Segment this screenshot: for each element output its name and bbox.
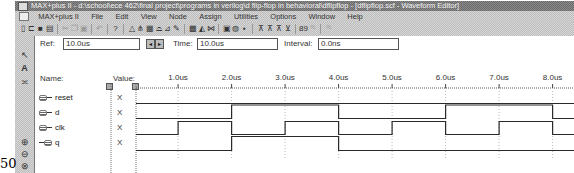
next-transition-button[interactable]: ▸ (155, 39, 164, 49)
undo-icon[interactable]: ↶ (95, 24, 104, 34)
menu-options[interactable]: Options (265, 11, 301, 22)
menu-maxplus[interactable]: MAX+plus II (33, 11, 84, 22)
cut-icon[interactable]: ✂ (61, 24, 70, 34)
waveform-draw-icon[interactable]: ≍ (17, 77, 32, 88)
menu-assign[interactable]: Assign (194, 11, 227, 22)
toolbar-separator (57, 24, 58, 34)
signal-name: d (55, 108, 59, 117)
toolbar-separator (123, 24, 124, 34)
hierarchy-display-icon[interactable]: ⋔ (136, 24, 145, 34)
signal-name: reset (55, 93, 73, 102)
zoom-out-icon[interactable]: ⊖ (17, 149, 32, 160)
interval-field[interactable]: 0.0ns (318, 38, 399, 50)
signal-value: X (117, 123, 122, 132)
copy-icon[interactable]: ❐ (70, 24, 79, 34)
time-tick-label: 3.0us (272, 73, 298, 82)
ref-time-field[interactable]: 10.0us (63, 38, 140, 50)
time-tick-label: 4.0us (326, 73, 352, 82)
time-tick-label: 6.0us (433, 73, 459, 82)
save-check-icon[interactable]: ⌓ (154, 24, 163, 34)
time-tick-label: 5.0us (379, 73, 405, 82)
waveform-clk (136, 122, 574, 135)
signal-value: X (117, 108, 122, 117)
tool-palette: ↖ A ≍ ⊕ ⊖ ⊗ (15, 36, 35, 173)
window-title: MAX+plus II - d:\school\ece 462\final pr… (31, 1, 459, 10)
name-column-header: Name: (40, 74, 64, 83)
menu-file[interactable]: File (86, 11, 108, 22)
maxplus-app-icon (18, 2, 28, 11)
menu-help[interactable]: Help (342, 11, 367, 22)
prev-transition-button[interactable]: ◂ (146, 39, 155, 49)
text-tool-icon[interactable]: A (17, 63, 32, 74)
save-compile-icon[interactable]: ⊿ (163, 24, 172, 34)
node-sort-icon[interactable]: ⊻ (283, 24, 292, 34)
simulator-icon[interactable]: ◭ (197, 24, 206, 34)
zoom-in-icon[interactable]: ⊕ (17, 137, 32, 148)
save-icon[interactable]: ■ (36, 24, 45, 34)
menu-view[interactable]: View (136, 11, 162, 22)
toolbar-separator (295, 24, 296, 34)
waveform-d (136, 105, 574, 119)
save-simulate-icon[interactable]: ✎ (172, 24, 181, 34)
signal-row-clk[interactable]: clk X (37, 122, 109, 134)
node-find-icon[interactable]: ⊼ (256, 24, 265, 34)
signal-value: X (117, 93, 122, 102)
compiler-icon[interactable]: ▩ (188, 24, 197, 34)
toolbar-separator (252, 24, 253, 34)
fit-in-window-icon[interactable]: ⊗ (17, 161, 32, 172)
menu-window[interactable]: Window (303, 11, 340, 22)
waveform-save-icon[interactable]: ▪ (240, 24, 249, 34)
signal-value: X (117, 138, 122, 147)
menu-utilities[interactable]: Utilities (229, 11, 263, 22)
overwrite-clock-icon[interactable]: ⁰¹ (324, 24, 333, 34)
programmer-icon[interactable]: ▣ (222, 24, 231, 34)
signal-row-d[interactable]: d X (37, 107, 109, 119)
time-field[interactable]: 10.0us (197, 38, 278, 50)
cursor-bar: Ref: 10.0us ◂ ▸ Time: 10.0us Interval: 0… (35, 36, 574, 52)
value-column-header[interactable]: Value: (113, 74, 135, 83)
signal-row-reset[interactable]: reset X (37, 92, 109, 104)
message-processor-icon[interactable]: ◍ (231, 24, 240, 34)
menu-bar: MAX+plus II File Edit View Node Assign U… (15, 11, 574, 22)
context-help-icon[interactable]: ? (111, 24, 120, 34)
page-number: 50 (0, 156, 17, 171)
hierarchy-up-icon[interactable]: △ (127, 24, 136, 34)
title-bar: MAX+plus II - d:\school\ece 462\final pr… (15, 1, 574, 11)
toolbar-separator (320, 24, 321, 34)
toolbar: ▯⊏■▤✂❐▣↶?△⋔▦⌓⊿✎▩◭⋈▣◍▪⊼⊼⊼⊻89⁰¹⁰¹ (15, 22, 574, 36)
input-pin-icon (39, 125, 52, 131)
floorplan-editor-icon[interactable]: ▦ (145, 24, 154, 34)
timing-analyzer-icon[interactable]: ⋈ (206, 24, 215, 34)
node-group-icon[interactable]: ⊼ (265, 24, 274, 34)
time-tick-label: 2.0us (219, 73, 245, 82)
node-ungroup-icon[interactable]: ⊼ (274, 24, 283, 34)
new-file-icon[interactable]: ▯ (18, 24, 27, 34)
output-pin-icon (39, 140, 52, 146)
toolbar-separator (91, 24, 92, 34)
paste-icon[interactable]: ▣ (79, 24, 88, 34)
name-column-resize-handle[interactable] (106, 83, 113, 90)
toolbar-separator (184, 24, 185, 34)
menu-node[interactable]: Node (164, 11, 192, 22)
toolbar-separator (218, 24, 219, 34)
time-tick-label: 8.0us (540, 73, 566, 82)
waveform-q (136, 137, 574, 151)
selection-tool-icon[interactable]: ↖ (17, 50, 32, 61)
time-label: Time: (173, 39, 193, 48)
open-file-icon[interactable]: ⊏ (27, 24, 36, 34)
document-control-icon[interactable] (19, 12, 29, 21)
overwrite-value-icon[interactable]: 89 (299, 24, 308, 34)
signal-name: clk (55, 123, 65, 132)
time-tick-label: 1.0us (165, 73, 191, 82)
input-pin-icon (39, 95, 52, 101)
interval-label: Interval: (284, 39, 312, 48)
signal-row-q[interactable]: q X (37, 137, 109, 149)
overwrite-count-icon[interactable]: ⁰¹ (308, 24, 317, 34)
time-tick-label: 7.0us (486, 73, 512, 82)
menu-edit[interactable]: Edit (110, 11, 133, 22)
signal-name: q (55, 138, 59, 147)
value-column-resize-handle[interactable] (132, 83, 139, 90)
toolbar-separator (107, 24, 108, 34)
print-icon[interactable]: ▤ (45, 24, 54, 34)
input-pin-icon (39, 110, 52, 116)
